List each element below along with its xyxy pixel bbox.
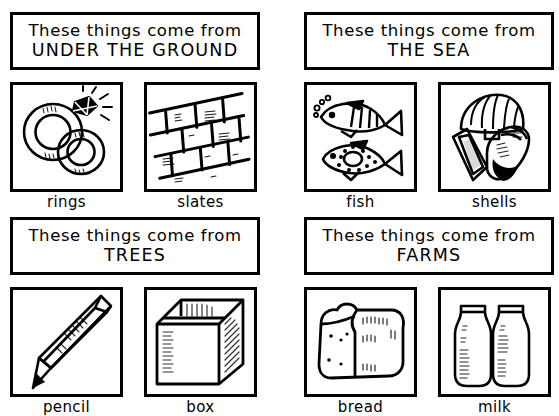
picture-box: [304, 82, 417, 192]
item-label: box: [144, 399, 257, 416]
bread-icon: [307, 290, 414, 394]
item-label: shells: [438, 194, 551, 211]
panel-farms: These things come from FARMS: [302, 215, 559, 415]
item-cell: fish: [304, 82, 417, 211]
worksheet-page: These things come from UNDER THE GROUND: [0, 0, 559, 416]
item-label: fish: [304, 194, 417, 211]
picture-box: [144, 82, 257, 192]
panel-trees: These things come from TREES: [8, 215, 267, 415]
picture-box: [10, 287, 123, 397]
heading-line-2: UNDER THE GROUND: [32, 41, 239, 60]
fish-icon: [307, 85, 414, 189]
picture-box: [438, 82, 551, 192]
box-icon: [147, 290, 254, 394]
heading-line-1: These things come from: [322, 227, 535, 244]
heading-line-2: THE SEA: [387, 41, 470, 60]
panel-heading-box: These things come from TREES: [10, 217, 260, 275]
milk-icon: [441, 290, 548, 394]
panel-items: pencil: [10, 287, 260, 416]
panel-heading-box: These things come from FARMS: [304, 217, 554, 275]
picture-box: [144, 287, 257, 397]
shells-icon: [441, 85, 548, 189]
pencil-icon: [13, 290, 120, 394]
item-cell: rings: [10, 82, 123, 211]
item-label: bread: [304, 399, 417, 416]
item-label: pencil: [10, 399, 123, 416]
item-cell: shells: [438, 82, 551, 211]
slates-icon: [147, 85, 254, 189]
item-cell: slates: [144, 82, 257, 211]
panel-items: rings: [10, 82, 260, 211]
heading-line-1: These things come from: [322, 22, 535, 39]
panel-under-the-ground: These things come from UNDER THE GROUND: [8, 10, 267, 210]
panel-heading-box: These things come from THE SEA: [304, 12, 554, 70]
picture-box: [10, 82, 123, 192]
item-label: slates: [144, 194, 257, 211]
heading-line-2: TREES: [104, 246, 166, 265]
item-label: rings: [10, 194, 123, 211]
panel-heading-box: These things come from UNDER THE GROUND: [10, 12, 260, 70]
picture-box: [438, 287, 551, 397]
panel-items: fish: [304, 82, 554, 211]
item-cell: box: [144, 287, 257, 416]
heading-line-1: These things come from: [28, 22, 241, 39]
item-cell: pencil: [10, 287, 123, 416]
panel-the-sea: These things come from THE SEA: [302, 10, 559, 210]
heading-line-2: FARMS: [397, 246, 462, 265]
item-cell: bread: [304, 287, 417, 416]
rings-icon: [13, 85, 120, 189]
item-label: milk: [438, 399, 551, 416]
panel-items: bread: [304, 287, 554, 416]
item-cell: milk: [438, 287, 551, 416]
picture-box: [304, 287, 417, 397]
heading-line-1: These things come from: [28, 227, 241, 244]
